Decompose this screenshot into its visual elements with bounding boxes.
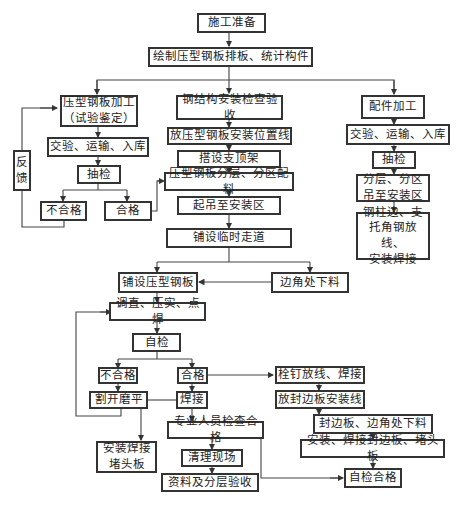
node-weld: 焊接 xyxy=(176,391,208,409)
node-left-sample: 抽检 xyxy=(77,165,121,184)
node-right-receive: 交验、运输、入库 xyxy=(346,124,450,145)
node-drawing: 绘制压型钢板排板、统计构件 xyxy=(148,47,313,67)
node-left-pass: 合格 xyxy=(104,201,152,221)
node-edge-cut: 封边板、边角处下料 xyxy=(313,414,433,434)
node-straighten: 调直、压实、点焊 xyxy=(109,302,206,321)
node-hoist: 起吊至安装区 xyxy=(177,196,281,215)
node-pro-check: 专业人员检查合格 xyxy=(167,421,264,439)
node-right-zone: 分层、分区 吊至安装区 xyxy=(356,174,430,202)
node-mid-fail: 不合格 xyxy=(98,367,138,384)
node-layout-line: 放压型钢板安装位置线 xyxy=(167,127,292,145)
node-prep: 施工准备 xyxy=(197,13,266,33)
node-fittings-processing: 配件加工 xyxy=(361,95,425,119)
node-mid-pass: 合格 xyxy=(177,367,208,384)
node-self-check: 自检 xyxy=(132,333,181,352)
node-walkway: 铺设临时走道 xyxy=(166,228,292,248)
node-zone-material: 压型钢板分层、分区配料 xyxy=(164,172,294,191)
node-feedback: 反 馈 xyxy=(13,150,31,191)
node-lay-sheet: 铺设压型钢板 xyxy=(118,272,198,293)
node-left-receive: 交验、运输、入库 xyxy=(47,137,149,157)
node-steel-acceptance: 钢结构安装检查验收 xyxy=(176,95,283,120)
node-cut-grind: 割开磨平 xyxy=(89,391,148,409)
node-cleanup: 清理现场 xyxy=(181,449,243,467)
node-edge-install: 安装、焊接封边板、堵头板 xyxy=(300,439,445,458)
node-sheet-processing: 压型钢板加工 （试验鉴定） xyxy=(60,95,138,127)
node-right-sample: 抽检 xyxy=(372,151,416,169)
node-self-pass: 自检合格 xyxy=(344,468,402,488)
node-corner-cut: 边角处下料 xyxy=(271,272,349,293)
node-right-column: 钢柱边、支 托角钢放线、 安装焊接 xyxy=(356,212,430,260)
node-edge-line: 放封边板安装线 xyxy=(275,390,365,409)
node-stud: 栓钉放线、焊接 xyxy=(275,366,365,384)
node-left-fail: 不合格 xyxy=(40,201,87,221)
node-docs: 资料及分层验收 xyxy=(161,473,259,492)
node-install-end: 安装焊接 堵头板 xyxy=(96,441,157,473)
